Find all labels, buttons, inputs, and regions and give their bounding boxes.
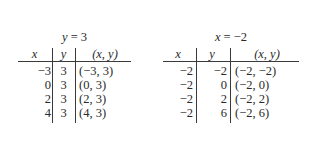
header-x: x [18,48,51,60]
cell-xy: (−2, 6) [235,106,299,120]
cell-x: −2 [163,92,193,106]
table-title: x = −2 [163,29,299,45]
cell-x: −2 [163,78,193,92]
cell-x: −2 [163,64,193,78]
column-divider [230,48,231,123]
column-divider [196,48,197,123]
header-x: x [163,48,193,60]
title-value: −2 [234,30,247,44]
cell-x: 0 [18,78,51,92]
cell-x: 2 [18,92,51,106]
cell-xy: (0, 3) [79,78,131,92]
cell-x: −2 [163,106,193,120]
cell-xy: (2, 3) [79,92,131,106]
column-divider [75,48,76,123]
cell-xy: (−3, 3) [79,64,131,78]
cell-y: −2 [197,64,227,78]
cell-xy: (−2, 2) [235,92,299,106]
title-value: 3 [81,30,87,44]
column-divider [52,48,53,123]
cell-xy: (−2, 0) [235,78,299,92]
table-row: −2 0 (−2, 0) [163,78,299,92]
header-y: y [197,48,227,60]
header-y: y [53,48,74,60]
table-row: −2 2 (−2, 2) [163,92,299,106]
cell-y: 2 [197,92,227,106]
cell-y: 3 [53,78,74,92]
table-grid: x y (x, y) −2 −2 (−2, −2) −2 0 (−2, 0) −… [163,48,299,120]
cell-x: −3 [18,64,51,78]
table-row: −2 −2 (−2, −2) [163,64,299,78]
cell-y: 3 [53,64,74,78]
cell-y: 6 [197,106,227,120]
cell-y: 0 [197,78,227,92]
table-header-row: x y (x, y) [163,48,299,62]
title-equals: = [220,30,233,44]
cell-x: 4 [18,106,51,120]
title-equals: = [68,30,81,44]
cell-y: 3 [53,106,74,120]
cell-xy: (−2, −2) [235,64,299,78]
header-xy: (x, y) [235,48,299,60]
table-row: −2 6 (−2, 6) [163,106,299,120]
header-xy: (x, y) [79,48,131,60]
cell-y: 3 [53,92,74,106]
table-title: y = 3 [18,29,131,45]
cell-xy: (4, 3) [79,106,131,120]
